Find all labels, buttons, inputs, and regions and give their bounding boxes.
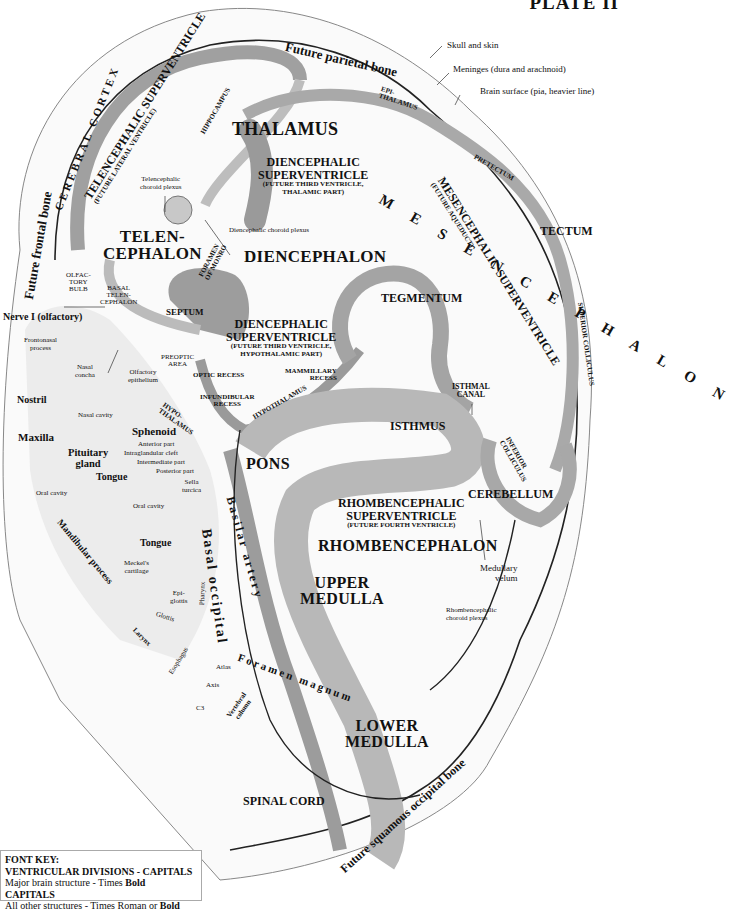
label-nerve-i: Nerve I (olfactory) <box>3 312 82 322</box>
label-meckels-cartilage: Meckel's cartilage <box>124 560 149 575</box>
label-tongue-upper: Tongue <box>96 472 127 482</box>
label-oral-cavity-mid: Oral cavity <box>133 503 164 510</box>
label-medullary-velum: Medullary velum <box>480 564 518 584</box>
label-skull-and-skin: Skull and skin <box>447 41 499 50</box>
dien-thal-title-1: DIENCEPHALIC <box>258 156 368 169</box>
isthmal-line2: CANAL <box>452 391 490 399</box>
label-nasal-concha: Nasal concha <box>75 364 95 379</box>
frontonasal-line2: process <box>24 345 57 353</box>
label-isthmus: ISTHMUS <box>390 420 445 432</box>
label-optic-recess: OPTIC RECESS <box>193 372 244 379</box>
label-diencephalon: DIENCEPHALON <box>244 248 386 265</box>
label-diencephalic-superventricle-thalamic: DIENCEPHALIC SUPERVENTRICLE (FUTURE THIR… <box>258 156 368 196</box>
label-axis: Axis <box>206 682 219 689</box>
nasal-concha-line2: concha <box>75 372 95 380</box>
label-pharynx: Pharynx <box>199 582 207 606</box>
label-mammillary-recess: MAMMILLARY RECESS <box>285 368 337 382</box>
label-oral-cavity-left: Oral cavity <box>36 490 67 497</box>
rhomb-choroid-line2: choroid plexus <box>446 615 497 623</box>
epiglottis-line2: glottis <box>170 598 188 606</box>
label-septum: SEPTUM <box>166 308 204 317</box>
infund-line2: RECESS <box>200 401 254 408</box>
font-key-line-other-bold: Bold <box>160 900 180 911</box>
label-telencephalon-line2: CEPHALON <box>103 245 202 262</box>
pituitary-line2: gland <box>68 458 108 469</box>
label-lower-medulla: LOWER MEDULLA <box>345 718 429 750</box>
label-frontonasal-process: Frontonasal process <box>24 337 57 352</box>
label-lower-medulla-line1: LOWER <box>345 718 429 734</box>
pituitary-line1: Pituitary <box>68 447 108 458</box>
font-key-line-ventricular: VENTRICULAR DIVISIONS - CAPITALS <box>5 866 197 878</box>
mammillary-line2: RECESS <box>285 375 337 382</box>
label-c3: C3 <box>196 705 204 712</box>
olf-epi-line2: epithelium <box>128 377 158 385</box>
sella-line2: turcica <box>182 487 201 495</box>
basal-tel-line3: CEPHALON <box>100 299 137 306</box>
font-key-line-other: All other structures - Times Roman or Bo… <box>5 900 197 912</box>
label-olfactory-bulb: OLFAC- TORY BULB <box>66 272 91 293</box>
font-key-heading: FONT KEY: <box>5 854 197 866</box>
rhomb-title-1: RHOMBENCEPHALIC <box>338 497 465 510</box>
label-isthmal-canal: ISTHMAL CANAL <box>452 383 490 399</box>
label-rhombencephalic-superventricle: RHOMBENCEPHALIC SUPERVENTRICLE (FUTURE F… <box>338 497 465 530</box>
font-key-line-major: Major brain structure - Times Bold CAPIT… <box>5 877 197 900</box>
label-rhombencephalon: RHOMBENCEPHALON <box>318 538 498 554</box>
label-brain-surface: Brain surface (pia, heavier line) <box>480 87 594 96</box>
font-key-line-other-prefix: All other structures - Times Roman or <box>5 900 160 911</box>
label-telencephalic-choroid-plexus: Telencephalic choroid plexus <box>140 176 181 191</box>
label-tectum: TECTUM <box>540 225 593 237</box>
preoptic-line2: AREA <box>161 361 194 368</box>
label-lower-medulla-line2: MEDULLA <box>345 734 429 750</box>
med-velum-line2: velum <box>480 574 518 584</box>
label-pons: PONS <box>246 456 290 472</box>
label-meninges: Meninges (dura and arachnoid) <box>453 65 566 74</box>
label-cerebellum: CEREBELLUM <box>468 488 553 500</box>
tel-choroid-line2: choroid plexus <box>140 184 181 192</box>
olf-bulb-line3: BULB <box>66 286 91 293</box>
label-telencephalon-line1: TELEN- <box>103 228 202 245</box>
label-nasal-cavity: Nasal cavity <box>78 412 113 419</box>
label-basal-telencephalon: BASAL TELEN- CEPHALON <box>100 285 137 306</box>
meckels-line2: cartilage <box>124 568 149 576</box>
label-tongue-lower: Tongue <box>140 538 171 548</box>
font-key-legend: FONT KEY: VENTRICULAR DIVISIONS - CAPITA… <box>0 850 202 901</box>
label-spinal-cord: SPINAL CORD <box>243 795 325 807</box>
label-telencephalon: TELEN- CEPHALON <box>103 228 202 262</box>
label-olfactory-epithelium: Olfactory epithelium <box>128 369 158 384</box>
dien-hypo-sub-2: HYPOTHALAMIC PART) <box>226 351 336 358</box>
label-posterior-part: Posterior part <box>156 468 194 475</box>
font-key-line-major-prefix: Major brain structure - Times <box>5 877 125 888</box>
dien-hypo-title-1: DIENCEPHALIC <box>226 318 336 331</box>
label-diencephalic-superventricle-hypothalamic: DIENCEPHALIC SUPERVENTRICLE (FUTURE THIR… <box>226 318 336 358</box>
label-intraglandular-cleft: Intraglandular cleft <box>124 450 178 457</box>
plate-title: PLATE II <box>530 0 619 14</box>
label-anterior-part: Anterior part <box>138 441 174 448</box>
label-sella-turcica: Sella turcica <box>182 479 201 494</box>
label-upper-medulla-line2: MEDULLA <box>300 591 384 607</box>
label-preoptic-area: PREOPTIC AREA <box>161 354 194 368</box>
rhomb-sub: (FUTURE FOURTH VENTRICLE) <box>338 522 465 529</box>
label-upper-medulla-line1: UPPER <box>300 575 384 591</box>
label-upper-medulla: UPPER MEDULLA <box>300 575 384 607</box>
label-tegmentum: TEGMENTUM <box>381 292 462 304</box>
label-atlas: Atlas <box>216 664 231 671</box>
label-maxilla: Maxilla <box>18 432 54 443</box>
label-intermediate-part: Intermediate part <box>137 459 185 466</box>
dien-thal-sub-2: THALAMIC PART) <box>258 189 368 196</box>
label-rhombencephalic-choroid-plexus: Rhombencephalic choroid plexus <box>446 607 497 622</box>
label-nostril: Nostril <box>17 395 46 405</box>
label-diencephalic-choroid-plexus: Diencephalic choroid plexus <box>229 227 309 234</box>
label-thalamus: THALAMUS <box>232 120 338 138</box>
label-infundibular-recess: INFUNDIBULAR RECESS <box>200 394 254 408</box>
label-epiglottis: Epi- glottis <box>170 590 188 605</box>
label-sphenoid: Sphenoid <box>132 426 176 437</box>
label-pituitary-gland: Pituitary gland <box>68 447 108 469</box>
